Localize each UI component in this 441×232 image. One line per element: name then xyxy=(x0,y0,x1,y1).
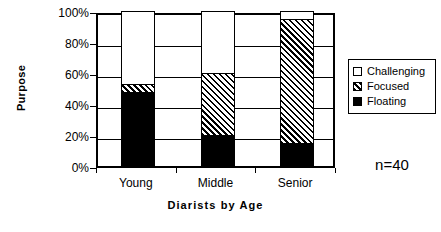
y-axis-tick-label: 100% xyxy=(29,7,89,19)
bar-segment-young-floating xyxy=(121,92,155,166)
y-axis-tick-label: 0% xyxy=(29,162,89,174)
bar-senior xyxy=(280,15,314,166)
plot-area xyxy=(96,13,335,168)
y-axis-tick-label: 80% xyxy=(29,38,89,50)
bar-segment-senior-floating xyxy=(280,143,314,166)
y-axis-tick-label: 60% xyxy=(29,69,89,81)
legend-item-floating: Floating xyxy=(353,94,432,109)
legend-swatch-focused xyxy=(353,82,362,91)
x-axis-tick-mark xyxy=(96,168,97,173)
bar-young xyxy=(121,15,155,166)
bar-segment-middle-floating xyxy=(201,135,235,166)
bar-segment-middle-challenging xyxy=(201,11,235,73)
legend-swatch-challenging xyxy=(353,67,362,76)
bar-segment-young-focused xyxy=(121,84,155,92)
bar-segment-young-challenging xyxy=(121,11,155,84)
bar-segment-middle-focused xyxy=(201,73,235,135)
y-axis-tick-label: 40% xyxy=(29,100,89,112)
bar-middle xyxy=(201,15,235,166)
legend-label: Challenging xyxy=(367,66,425,77)
legend-item-focused: Focused xyxy=(353,79,432,94)
x-axis-title: Diarists by Age xyxy=(96,199,335,211)
x-axis-tick-mark xyxy=(255,168,256,173)
x-axis-tick-label-young: Young xyxy=(96,176,176,190)
sample-size-annotation: n=40 xyxy=(352,156,432,173)
x-axis-tick-label-senior: Senior xyxy=(255,176,335,190)
chart-container: Purpose 0%20%40%60%80%100% YoungMiddleSe… xyxy=(0,0,441,232)
x-axis-tick-label-middle: Middle xyxy=(176,176,256,190)
y-axis-title: Purpose xyxy=(15,48,27,128)
legend-label: Focused xyxy=(367,81,409,92)
x-axis-tick-mark xyxy=(176,168,177,173)
legend: ChallengingFocusedFloating xyxy=(348,59,436,114)
legend-swatch-floating xyxy=(353,97,362,106)
y-axis-tick-label: 20% xyxy=(29,131,89,143)
x-axis-tick-mark xyxy=(335,168,336,173)
legend-label: Floating xyxy=(367,96,406,107)
bar-segment-senior-challenging xyxy=(280,11,314,19)
legend-item-challenging: Challenging xyxy=(353,64,432,79)
bar-segment-senior-focused xyxy=(280,19,314,143)
